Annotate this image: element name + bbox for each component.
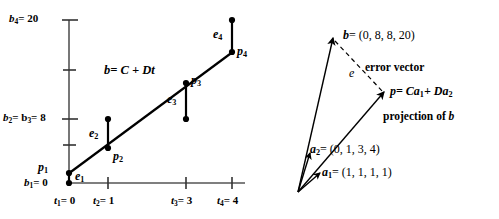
error-label-e2: e2 — [89, 127, 98, 141]
vector-label-b: b= (0, 8, 8, 20) — [343, 29, 415, 41]
error-segment-e1 — [66, 170, 72, 186]
projection-text-label: projection of b — [383, 111, 454, 123]
x-axis-label-t4: t4= 4 — [217, 195, 238, 208]
left-plot-axes — [62, 20, 245, 189]
y-axis-label-b4: b4= 20 — [9, 13, 38, 26]
fitted-point-p3 — [183, 80, 189, 86]
data-point-b1 — [66, 180, 72, 186]
vector-label-a2: a2= (0, 1, 3, 4) — [310, 143, 380, 157]
vector-label-a1: a1= (1, 1, 1, 1) — [322, 166, 392, 180]
point-label-p2: p2 — [113, 150, 123, 164]
error-segment-e2 — [105, 116, 111, 151]
fitted-point-p4 — [229, 49, 235, 55]
data-point-b3 — [183, 116, 189, 122]
best-fit-line-equation-label: b= C + Dt — [104, 64, 155, 77]
fitted-point-p2 — [105, 145, 111, 151]
fitted-point-p1 — [66, 170, 72, 176]
error-segment-e4 — [229, 17, 235, 55]
data-point-b2 — [105, 116, 111, 122]
vector-label-p: p= Ca1+ Da2 — [390, 85, 453, 99]
point-label-p3: p3 — [191, 74, 201, 88]
x-axis-label-t2: t2= 1 — [93, 195, 114, 208]
point-label-p1: p1 — [38, 161, 48, 175]
x-axis-label-t3: t3= 3 — [171, 195, 192, 208]
point-label-p4: p4 — [237, 45, 247, 59]
error-label-e3: e3 — [167, 93, 176, 107]
error-vector-label-e: e — [349, 67, 354, 79]
error-vector-text-label: error vector — [365, 62, 424, 74]
error-label-e1: e1 — [75, 170, 84, 184]
y-axis-label-b2-b3: b2= b3= 8 — [3, 112, 46, 125]
least-squares-figure: b4= 20 b2= b3= 8 b1= 0 t1= 0 t2= 1 t3= 3… — [0, 0, 499, 219]
error-label-e4: e4 — [213, 28, 222, 42]
y-axis-label-b1: b1= 0 — [24, 177, 48, 190]
x-axis-label-t1: t1= 0 — [54, 195, 75, 208]
data-point-b4 — [229, 17, 235, 23]
